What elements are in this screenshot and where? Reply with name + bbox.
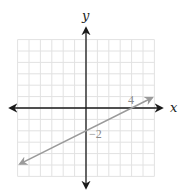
- y-intercept-label: −2: [89, 127, 102, 141]
- coordinate-graph: x y 4 −2: [0, 0, 180, 191]
- x-axis-label: x: [170, 100, 178, 115]
- x-intercept-label: 4: [128, 93, 134, 107]
- y-axis-label: y: [81, 8, 90, 23]
